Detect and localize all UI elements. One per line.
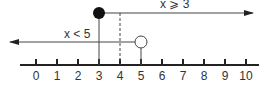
inequality-label-lt-5: x < 5 bbox=[64, 27, 91, 41]
tick-label-7: 7 bbox=[180, 69, 187, 83]
tick-label-9: 9 bbox=[222, 69, 229, 83]
axis-labels: 0 1 2 3 4 5 6 7 8 9 10 bbox=[33, 69, 253, 83]
tick-label-1: 1 bbox=[54, 69, 61, 83]
tick-label-10: 10 bbox=[239, 69, 253, 83]
tick-label-0: 0 bbox=[33, 69, 40, 83]
tick-label-2: 2 bbox=[75, 69, 82, 83]
number-line-diagram: 0 1 2 3 4 5 6 7 8 9 10 x ⩾ 3 x < 5 bbox=[0, 0, 270, 88]
open-endpoint-icon bbox=[135, 36, 147, 48]
tick-label-3: 3 bbox=[96, 69, 103, 83]
tick-label-8: 8 bbox=[201, 69, 208, 83]
tick-label-4: 4 bbox=[117, 69, 124, 83]
inequality-label-ge-3: x ⩾ 3 bbox=[160, 0, 190, 11]
tick-label-6: 6 bbox=[159, 69, 166, 83]
tick-label-5: 5 bbox=[138, 69, 145, 83]
filled-endpoint-icon bbox=[93, 7, 105, 19]
inequality-x-ge-3: x ⩾ 3 bbox=[93, 0, 253, 65]
